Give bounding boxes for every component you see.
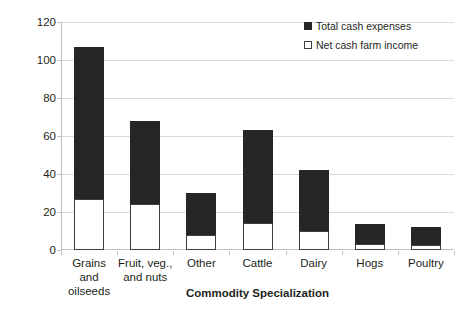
x-axis-title: Commodity Specialization [61, 287, 454, 299]
x-tick-mark [229, 251, 230, 255]
bar-segment-net-cash-farm-income[interactable] [130, 204, 160, 250]
x-tick-label-line: Poultry [398, 256, 454, 270]
x-tick-label: Poultry [398, 256, 454, 270]
bar-stack [355, 224, 385, 250]
hollow-square-icon [304, 41, 312, 49]
bar-chart: $ Billions 120100806040200 Grains andoil… [0, 0, 465, 311]
bar-stack [243, 130, 273, 250]
bar-segment-net-cash-farm-income[interactable] [299, 231, 329, 250]
bar-segment-net-cash-farm-income[interactable] [243, 223, 273, 250]
x-tick-label-line: Cattle [229, 256, 285, 270]
bar-group[interactable] [74, 22, 104, 250]
bar-segment-net-cash-farm-income[interactable] [74, 199, 104, 250]
y-tick-label: 80 [4, 92, 56, 104]
bar-segment-net-cash-farm-income[interactable] [355, 244, 385, 250]
bar-group[interactable] [186, 22, 216, 250]
x-tick-label-line: Grains and [61, 256, 117, 284]
x-tick-mark [454, 251, 455, 255]
x-tick-label: Hogs [342, 256, 398, 270]
legend-label: Net cash farm income [316, 39, 418, 51]
bar-group[interactable] [130, 22, 160, 250]
y-tick-label: 100 [4, 54, 56, 66]
x-tick-label-line: Fruit, veg., [117, 256, 173, 270]
y-tick-label: 60 [4, 130, 56, 142]
x-tick-label: Cattle [229, 256, 285, 270]
legend-label: Total cash expenses [316, 20, 411, 32]
y-tick-label: 0 [4, 244, 56, 256]
bar-stack [130, 121, 160, 250]
y-tick-label: 40 [4, 168, 56, 180]
x-tick-mark [342, 251, 343, 255]
bar-stack [299, 170, 329, 250]
x-tick-mark [117, 251, 118, 255]
x-tick-label-line: Hogs [342, 256, 398, 270]
y-axis-ticks: 120100806040200 [0, 22, 56, 250]
legend-item[interactable]: Net cash farm income [304, 39, 454, 51]
x-tick-mark [398, 251, 399, 255]
x-tick-label: Dairy [286, 256, 342, 270]
bar-segment-net-cash-farm-income[interactable] [186, 235, 216, 250]
y-tick-label: 20 [4, 206, 56, 218]
bar-stack [74, 47, 104, 250]
bar-segment-net-cash-farm-income[interactable] [411, 245, 441, 250]
x-tick-label: Fruit, veg.,and nuts [117, 256, 173, 284]
legend-item[interactable]: Total cash expenses [304, 20, 454, 32]
bar-group[interactable] [243, 22, 273, 250]
bar-stack [411, 227, 441, 250]
x-tick-label-line: Other [173, 256, 229, 270]
x-tick-mark [173, 251, 174, 255]
x-tick-mark [61, 251, 62, 255]
bar-stack [186, 193, 216, 250]
y-tick-label: 120 [4, 16, 56, 28]
x-tick-label-line: and nuts [117, 270, 173, 284]
x-tick-label-line: Dairy [286, 256, 342, 270]
chart-legend: Total cash expensesNet cash farm income [304, 20, 454, 58]
x-tick-mark [286, 251, 287, 255]
filled-square-icon [304, 22, 312, 30]
x-tick-label: Other [173, 256, 229, 270]
